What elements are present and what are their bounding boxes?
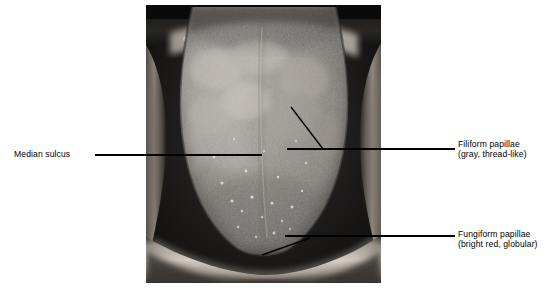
tongue-photo-graphic: [146, 5, 381, 283]
label-filiform-detail: (gray, thread-like): [458, 149, 527, 159]
label-median-sulcus-name: Median sulcus: [14, 149, 70, 159]
figure-tongue-anatomy: Median sulcus Filiform papillae (gray, t…: [0, 0, 557, 293]
label-fungiform-detail: (bright red, globular): [458, 239, 538, 249]
label-filiform-papillae: Filiform papillae (gray, thread-like): [458, 139, 527, 160]
label-fungiform-name: Fungiform papillae: [458, 229, 531, 239]
label-median-sulcus: Median sulcus: [14, 149, 70, 159]
label-fungiform-papillae: Fungiform papillae (bright red, globular…: [458, 229, 538, 250]
tongue-photograph: [146, 5, 381, 283]
label-filiform-name: Filiform papillae: [458, 139, 520, 149]
